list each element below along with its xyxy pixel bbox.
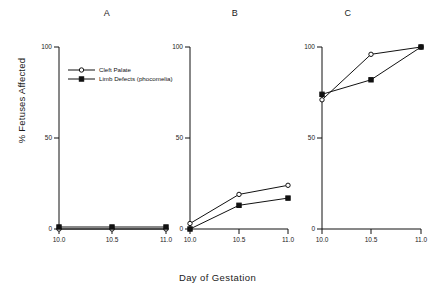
- panel-c-plot: [0, 0, 435, 289]
- figure-container: % Fetuses Affected A B C 100 50 0 10.0 1…: [0, 0, 435, 289]
- panel-c-ytick-0: 0: [291, 225, 315, 232]
- data-point: [369, 52, 373, 56]
- panel-c-xtick-105: 10.5: [356, 236, 386, 243]
- panel-c-xtick-10: 10.0: [307, 236, 337, 243]
- data-point: [320, 92, 324, 96]
- panel-c-xtick-11: 11.0: [406, 236, 435, 243]
- panel-c-ytick-50: 50: [291, 134, 315, 141]
- data-point: [369, 78, 373, 82]
- data-point: [419, 45, 423, 49]
- panel-c-ytick-100: 100: [291, 43, 315, 50]
- x-axis-label: Day of Gestation: [0, 272, 435, 283]
- data-point: [320, 98, 324, 102]
